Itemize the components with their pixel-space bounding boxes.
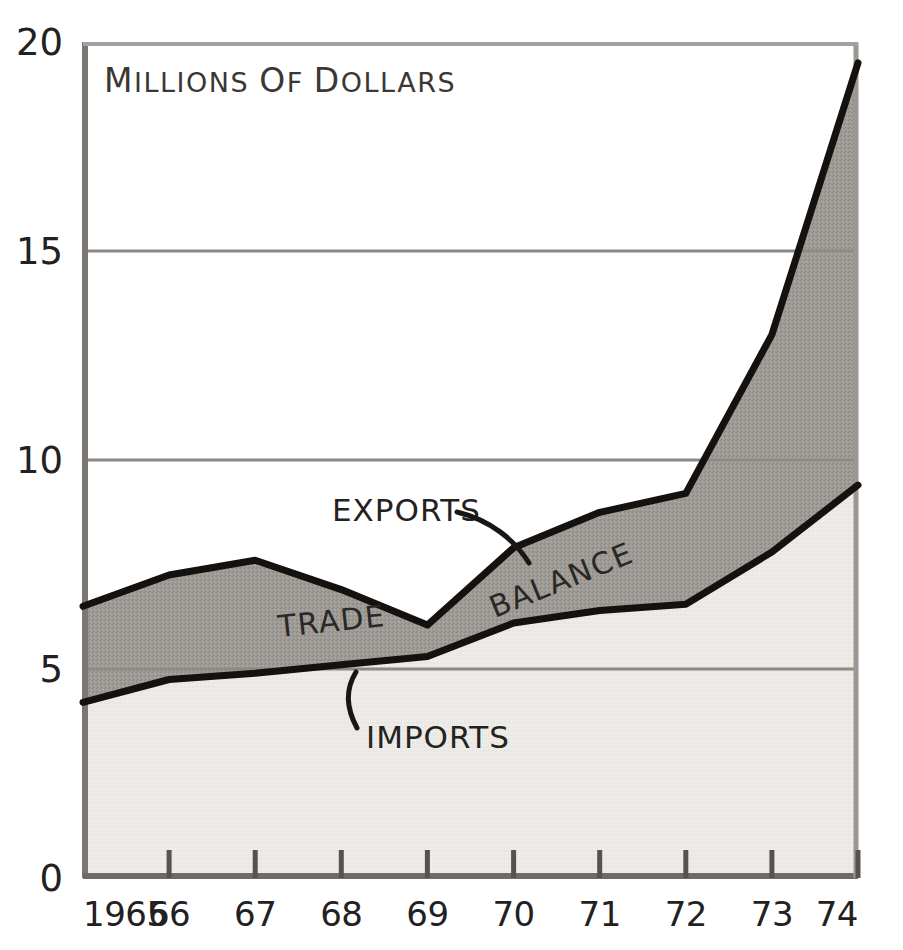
x-tick-label-73: 73	[751, 894, 793, 934]
x-tick-label-74: 74	[816, 894, 858, 934]
x-tick-label-70: 70	[492, 894, 534, 934]
y-tick-label-5: 5	[39, 648, 63, 691]
x-tick-label-71: 71	[579, 894, 621, 934]
x-tick-label-67: 67	[234, 894, 276, 934]
x-tick-label-66: 66	[148, 894, 190, 934]
y-tick-label-10: 10	[16, 439, 63, 482]
y-axis-labels: 05101520	[16, 21, 63, 900]
annotation-imports: IMPORTS	[366, 719, 510, 755]
x-axis-labels: 1965666768697071727374	[83, 894, 858, 934]
y-tick-label-0: 0	[39, 857, 63, 900]
x-tick-label-69: 69	[406, 894, 448, 934]
x-tick-label-72: 72	[665, 894, 707, 934]
chart-root: MILLIONS OF DOLLARS 05101520 19656667686…	[0, 0, 903, 950]
y-tick-label-15: 15	[16, 230, 63, 273]
trade-balance-area-chart: MILLIONS OF DOLLARS 05101520 19656667686…	[0, 0, 903, 950]
x-tick-label-68: 68	[320, 894, 362, 934]
y-tick-label-20: 20	[16, 21, 63, 64]
chart-title: MILLIONS OF DOLLARS	[104, 61, 456, 100]
